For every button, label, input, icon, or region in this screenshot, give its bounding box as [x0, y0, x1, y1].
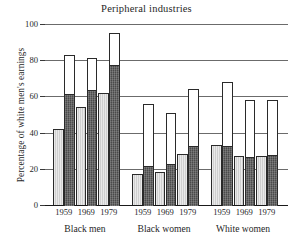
y-tick-mark: [40, 60, 45, 61]
y-tick-mark: [40, 205, 45, 206]
group-label: Black men: [50, 224, 120, 234]
x-tick-label: 1979: [256, 208, 278, 217]
bar-dark-solid: [64, 94, 75, 206]
y-tick-mark: [40, 96, 45, 97]
y-tick-label: 20: [12, 165, 38, 174]
bar-light: [98, 93, 109, 205]
y-tick-label: 60: [12, 92, 38, 101]
bar-light: [53, 129, 64, 205]
bar-hollow-total: [143, 104, 154, 205]
y-tick-label: 0: [12, 201, 38, 210]
bar-light: [256, 156, 267, 205]
bar-hollow-total: [109, 33, 120, 205]
bar-light: [234, 156, 245, 205]
bar-dark-solid: [245, 157, 256, 206]
bar-light: [177, 154, 188, 205]
group-label: White women: [208, 224, 278, 234]
y-tick-mark: [40, 133, 45, 134]
bar-hollow-total: [166, 113, 177, 205]
bar-light: [76, 107, 87, 205]
bar-light: [155, 172, 166, 205]
bar-dark-solid: [87, 90, 98, 206]
y-tick-label: 100: [12, 20, 38, 29]
y-tick-label: 40: [12, 129, 38, 138]
bar-dark-solid: [188, 146, 199, 206]
chart-title: Peripheral industries: [0, 3, 293, 14]
x-tick-label: 1969: [233, 208, 255, 217]
y-tick-label: 80: [12, 56, 38, 65]
plot-area: [45, 24, 288, 205]
y-tick-mark: [40, 24, 45, 25]
x-tick-label: 1979: [177, 208, 199, 217]
x-tick-label: 1979: [98, 208, 120, 217]
bar-hollow-total: [267, 100, 278, 205]
group-label: Black women: [129, 224, 199, 234]
bar-dark-solid: [109, 65, 120, 206]
x-tick-label: 1969: [154, 208, 176, 217]
y-tick-mark: [40, 169, 45, 170]
bar-dark-solid: [267, 155, 278, 206]
x-tick-label: 1959: [53, 208, 75, 217]
bar-hollow-total: [64, 55, 75, 205]
x-tick-label: 1969: [75, 208, 97, 217]
bar-dark-solid: [222, 146, 233, 206]
bar-hollow-total: [245, 100, 256, 205]
y-axis-title: Percentage of white men's earnings: [16, 20, 26, 210]
bar-hollow-total: [222, 82, 233, 205]
bar-hollow-total: [87, 58, 98, 205]
bar-light: [211, 145, 222, 205]
x-tick-label: 1959: [211, 208, 233, 217]
gridline-80: [45, 60, 288, 61]
x-tick-label: 1959: [132, 208, 154, 217]
gridline-60: [45, 96, 288, 97]
gridline-100: [45, 24, 288, 25]
bar-dark-solid: [143, 166, 154, 206]
bar-light: [132, 174, 143, 205]
chart-figure: Peripheral industries Percentage of whit…: [0, 0, 293, 243]
bar-hollow-total: [188, 89, 199, 205]
bar-dark-solid: [166, 164, 177, 206]
